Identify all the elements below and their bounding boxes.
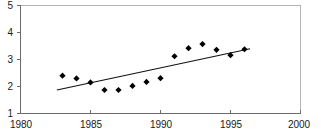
x-tick-label-2000: 2000 xyxy=(288,119,311,130)
data-point xyxy=(171,53,177,59)
data-point xyxy=(241,46,247,52)
data-point xyxy=(199,41,205,47)
x-tick-label-1985: 1985 xyxy=(80,119,103,130)
x-tick-label-1995: 1995 xyxy=(220,119,243,130)
x-tick-label-1990: 1990 xyxy=(150,119,173,130)
data-point xyxy=(157,75,163,81)
x-tick-labels: 1980 1985 1990 1995 2000 xyxy=(10,119,311,130)
data-point xyxy=(73,75,79,81)
data-point xyxy=(185,45,191,51)
y-tick-labels: 5 4 3 2 1 xyxy=(7,0,13,119)
data-point xyxy=(213,47,219,53)
trend-line xyxy=(57,49,250,90)
data-point-group xyxy=(59,41,247,93)
data-point xyxy=(115,87,121,93)
y-tick-label-5: 5 xyxy=(7,0,13,11)
data-point xyxy=(87,79,93,85)
data-point xyxy=(101,87,107,93)
y-tick-label-2: 2 xyxy=(7,81,13,92)
y-tick-label-3: 3 xyxy=(7,54,13,65)
chart-canvas: 5 4 3 2 1 1980 1985 1990 1995 2000 xyxy=(0,0,321,133)
data-point xyxy=(59,73,65,79)
data-point xyxy=(143,79,149,85)
x-tick-label-1980: 1980 xyxy=(10,119,33,130)
y-tick-label-4: 4 xyxy=(7,27,13,38)
y-tick-label-1: 1 xyxy=(7,108,13,119)
scatter-chart: 5 4 3 2 1 1980 1985 1990 1995 2000 xyxy=(0,0,321,133)
data-point xyxy=(129,83,135,89)
